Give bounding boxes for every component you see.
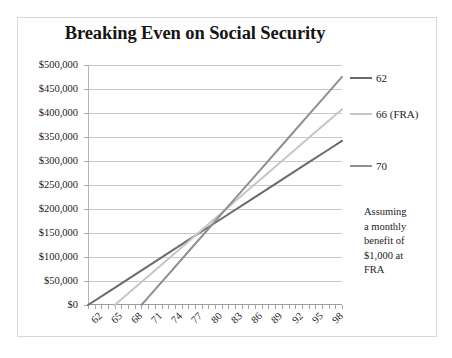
series-line-70 xyxy=(141,77,342,305)
series-lines xyxy=(88,65,342,305)
assumption-note-line: Assuming xyxy=(364,205,438,220)
y-tick-label: $400,000 xyxy=(39,108,78,119)
plot-area xyxy=(88,65,342,305)
chart-legend: 6266 (FRA)70 xyxy=(350,60,436,180)
y-tick-label: $350,000 xyxy=(39,132,78,143)
x-tick-label: 80 xyxy=(210,311,225,326)
y-tick-label: $250,000 xyxy=(39,180,78,191)
x-axis-tick xyxy=(342,305,343,309)
x-tick-label: 71 xyxy=(150,311,165,326)
legend-swatch-icon xyxy=(350,113,372,115)
legend-label: 62 xyxy=(376,72,387,84)
assumption-note-line: FRA xyxy=(364,263,438,278)
y-tick-label: $200,000 xyxy=(39,204,78,215)
x-axis-labels: 62656871747780838689929598 xyxy=(88,305,342,350)
legend-item-66-fra-[interactable]: 66 (FRA) xyxy=(350,108,418,120)
chart-figure: Breaking Even on Social Security $500,00… xyxy=(0,0,452,358)
x-tick-label: 77 xyxy=(190,311,205,326)
x-tick-label: 74 xyxy=(170,311,185,326)
x-tick-label: 92 xyxy=(290,311,305,326)
y-axis-labels: $500,000$450,000$400,000$350,000$300,000… xyxy=(17,65,83,305)
y-tick-label: $500,000 xyxy=(39,60,78,71)
series-line-62 xyxy=(88,141,342,305)
y-tick-label: $300,000 xyxy=(39,156,78,167)
assumption-note-line: benefit of xyxy=(364,234,438,249)
x-tick-label: 86 xyxy=(250,311,265,326)
y-tick-label: $150,000 xyxy=(39,228,78,239)
legend-item-70[interactable]: 70 xyxy=(350,160,387,172)
y-tick-label: $450,000 xyxy=(39,84,78,95)
chart-title: Breaking Even on Social Security xyxy=(30,23,360,44)
y-tick-label: $50,000 xyxy=(44,276,78,287)
legend-item-62[interactable]: 62 xyxy=(350,72,387,84)
legend-label: 66 (FRA) xyxy=(376,108,418,120)
legend-label: 70 xyxy=(376,160,387,172)
x-tick-label: 62 xyxy=(90,311,105,326)
assumption-note-line: $1,000 at xyxy=(364,249,438,264)
assumption-note: Assuminga monthlybenefit of$1,000 atFRA xyxy=(364,205,438,278)
legend-swatch-icon xyxy=(350,165,372,167)
x-tick-label: 83 xyxy=(230,311,245,326)
y-tick-label: $100,000 xyxy=(39,252,78,263)
y-tick-label: $0 xyxy=(68,300,79,311)
legend-swatch-icon xyxy=(350,77,372,79)
x-tick-label: 95 xyxy=(310,311,325,326)
x-tick-label: 68 xyxy=(130,311,145,326)
assumption-note-line: a monthly xyxy=(364,220,438,235)
x-tick-label: 89 xyxy=(270,311,285,326)
x-tick-label: 65 xyxy=(110,311,125,326)
